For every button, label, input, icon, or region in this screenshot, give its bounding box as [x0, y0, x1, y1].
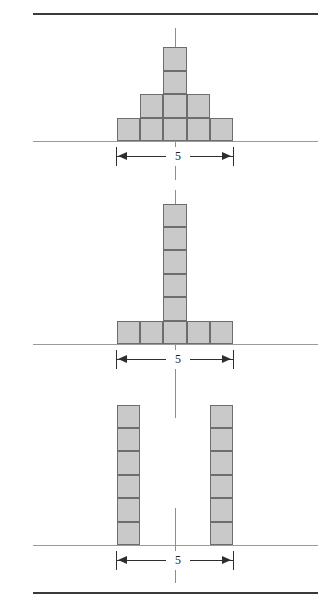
block — [210, 451, 233, 474]
block — [140, 321, 163, 344]
block — [117, 428, 140, 451]
dimension-twin: 5 — [116, 551, 234, 570]
block — [187, 118, 210, 141]
block — [163, 94, 186, 117]
block — [210, 498, 233, 521]
block — [140, 118, 163, 141]
block — [117, 118, 140, 141]
bottom-rule — [33, 592, 318, 594]
block — [117, 405, 140, 428]
block — [210, 428, 233, 451]
block — [210, 475, 233, 498]
block — [163, 47, 186, 70]
block — [140, 94, 163, 117]
arrowhead-left-icon — [118, 152, 127, 160]
block — [210, 405, 233, 428]
block — [163, 118, 186, 141]
ground-line-twin — [33, 545, 318, 546]
block — [163, 227, 186, 250]
dimension-tick-right — [233, 147, 234, 166]
dimension-label: 5 — [166, 551, 190, 570]
ground-line-pyramid — [33, 141, 318, 142]
dimension-tick-right — [233, 551, 234, 570]
block — [210, 321, 233, 344]
block — [117, 498, 140, 521]
block — [117, 475, 140, 498]
block — [163, 250, 186, 273]
arrowhead-right-icon — [222, 355, 231, 363]
dimension-label: 5 — [166, 147, 190, 166]
block — [163, 321, 186, 344]
dimension-tick-right — [233, 350, 234, 369]
block — [117, 451, 140, 474]
top-rule — [33, 13, 318, 15]
block — [210, 522, 233, 545]
dimension-pyramid: 5 — [116, 147, 234, 166]
block — [187, 94, 210, 117]
block — [163, 274, 186, 297]
block — [163, 297, 186, 320]
block — [210, 118, 233, 141]
block — [117, 522, 140, 545]
arrowhead-right-icon — [222, 152, 231, 160]
block — [117, 321, 140, 344]
arrowhead-right-icon — [222, 556, 231, 564]
block — [163, 204, 186, 227]
arrowhead-left-icon — [118, 556, 127, 564]
block — [163, 71, 186, 94]
arrowhead-left-icon — [118, 355, 127, 363]
ground-line-tee — [33, 344, 318, 345]
dimension-tee: 5 — [116, 350, 234, 369]
dimension-label: 5 — [166, 350, 190, 369]
centerline-twin-upper — [175, 370, 176, 418]
figure-canvas: 5 5 — [0, 0, 335, 606]
block — [187, 321, 210, 344]
